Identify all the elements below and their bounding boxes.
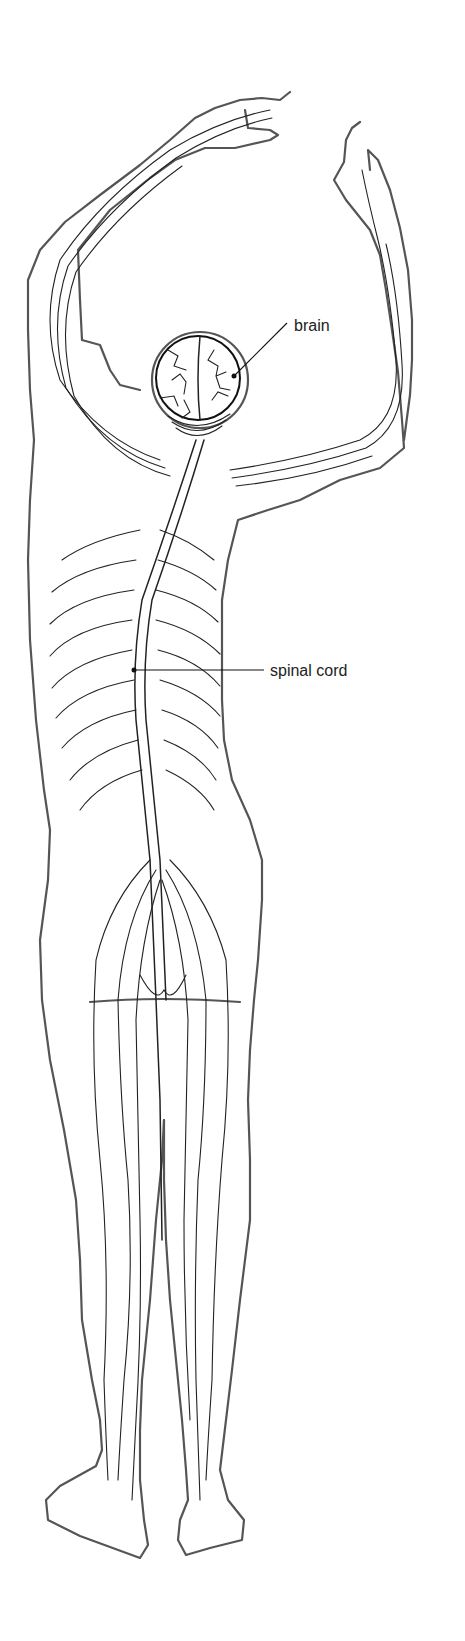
arm-nerves [50, 110, 402, 486]
nervous-system-figure [0, 0, 465, 1641]
body-outline [28, 92, 412, 1558]
spinal-cord [135, 440, 204, 1240]
brain-label: brain [294, 318, 330, 334]
spinal-cord-label: spinal cord [270, 663, 347, 679]
